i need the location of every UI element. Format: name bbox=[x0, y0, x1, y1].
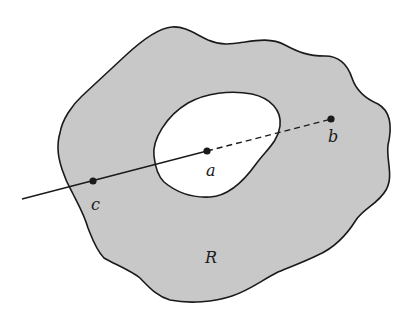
label-region-r: R bbox=[204, 248, 217, 267]
point-b bbox=[327, 115, 334, 122]
label-a: a bbox=[206, 161, 216, 180]
point-c bbox=[89, 177, 96, 184]
point-a bbox=[203, 147, 210, 154]
diagram-canvas: a b c R bbox=[0, 0, 405, 317]
label-c: c bbox=[91, 195, 100, 214]
label-b: b bbox=[328, 127, 338, 146]
